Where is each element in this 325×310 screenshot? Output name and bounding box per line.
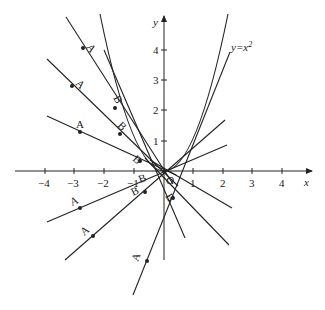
x-tick-label: −2 — [97, 177, 109, 189]
point-label-a: A — [76, 118, 84, 130]
y-tick-label: 4 — [153, 44, 159, 56]
y-tick-label: 1 — [153, 135, 159, 147]
y-tick-labels: 1 2 3 4 — [153, 44, 159, 147]
x-tick-label: −4 — [38, 177, 50, 189]
point-label-b: B — [131, 152, 144, 166]
point-label-b: B — [111, 93, 125, 105]
x-tick-label: −3 — [67, 177, 79, 189]
parabola-tangent-diagram: −4 −3 −2 −1 1 2 3 4 1 2 3 4 x y O y=x2 — [0, 0, 325, 310]
point-label-b: B — [116, 119, 130, 133]
curve-label: y=x2 — [230, 40, 252, 53]
y-axis-label: y — [152, 16, 158, 28]
y-tick-label: 2 — [153, 104, 159, 116]
diagram-canvas: −4 −3 −2 −1 1 2 3 4 1 2 3 4 x y O y=x2 — [0, 0, 325, 310]
x-tick-label: 1 — [190, 177, 196, 189]
point-labels: A A A B B B B B B A A A — [68, 41, 178, 262]
x-axis-label: x — [303, 176, 309, 188]
point-label-a: A — [84, 41, 98, 54]
point-label-a: A — [78, 223, 92, 237]
point-label-a: A — [74, 77, 88, 91]
point-label-a: A — [68, 194, 80, 208]
x-tick-label: 2 — [220, 177, 226, 189]
x-tick-label: 4 — [279, 177, 285, 189]
x-tick-label: 3 — [249, 177, 255, 189]
point-label-a: A — [129, 251, 143, 263]
y-tick-label: 3 — [153, 74, 159, 86]
